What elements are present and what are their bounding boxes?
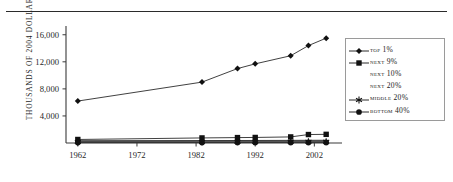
marker-diamond: [356, 48, 362, 54]
marker-diamond: [305, 43, 311, 49]
series-line: [78, 38, 326, 101]
marker-circle: [199, 140, 205, 146]
legend-marker-asterisk-icon: [348, 92, 370, 104]
legend-marker-circle-icon: [348, 104, 370, 116]
legend-label: MIDDLE 20%: [370, 93, 408, 102]
marker-circle: [356, 109, 362, 115]
legend-marker-none-icon: [348, 67, 370, 79]
legend-item[interactable]: BOTTOM 40%: [348, 104, 440, 116]
y-tick-label: 4,000: [40, 111, 59, 121]
chart-figure: THOUSANDS OF 2004 DOLLARS 4,0008,00012,0…: [0, 0, 453, 182]
legend-label: NEXT 9%: [370, 57, 397, 66]
legend-item[interactable]: NEXT 9%: [348, 55, 440, 67]
legend-item[interactable]: NEXT 10%: [348, 67, 440, 79]
marker-square: [356, 61, 361, 66]
legend-label: NEXT 10%: [370, 69, 402, 78]
axes-group: [66, 26, 342, 143]
legend-label: NEXT 20%: [370, 81, 402, 90]
y-tick-label: 12,000: [35, 57, 59, 67]
marker-circle: [75, 140, 81, 146]
marker-square: [323, 132, 328, 137]
marker-diamond: [234, 66, 240, 72]
x-axis-ticks: 19621972198219922002: [69, 143, 323, 160]
legend-item[interactable]: MIDDLE 20%: [348, 92, 440, 104]
marker-diamond: [323, 35, 329, 41]
legend-item[interactable]: NEXT 20%: [348, 80, 440, 92]
chart-legend: TOP 1%NEXT 9%NEXT 10%NEXT 20%MIDDLE 20%B…: [345, 38, 445, 121]
marker-diamond: [288, 53, 294, 59]
y-tick-label: 16,000: [35, 30, 59, 40]
marker-diamond: [252, 61, 258, 67]
marker-circle: [235, 140, 241, 146]
series-0: [75, 35, 329, 104]
legend-marker-none-icon: [348, 80, 370, 92]
marker-circle: [306, 140, 312, 146]
legend-marker-diamond-icon: [348, 43, 370, 55]
marker-circle: [288, 140, 294, 146]
marker-square: [306, 132, 311, 137]
x-tick-label: 1982: [187, 150, 204, 160]
legend-item[interactable]: TOP 1%: [348, 43, 440, 55]
x-tick-label: 1962: [69, 150, 86, 160]
legend-label: BOTTOM 40%: [370, 106, 410, 115]
marker-circle: [252, 140, 258, 146]
marker-diamond: [75, 98, 81, 104]
x-tick-label: 1992: [247, 150, 264, 160]
marker-circle: [323, 140, 329, 146]
legend-label: TOP 1%: [370, 45, 393, 54]
data-series-group: [75, 35, 329, 145]
x-tick-label: 1972: [128, 150, 145, 160]
marker-diamond: [199, 79, 205, 85]
x-tick-label: 2002: [306, 150, 323, 160]
legend-marker-square-icon: [348, 55, 370, 67]
y-axis-ticks: 4,0008,00012,00016,000: [35, 30, 66, 121]
y-tick-label: 8,000: [40, 84, 59, 94]
